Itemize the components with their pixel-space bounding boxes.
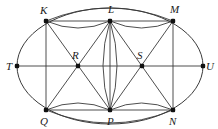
arc-K-L-lower	[46, 21, 110, 28]
vertex-dot-T	[15, 64, 19, 68]
vertex-dot-K	[44, 19, 48, 23]
vertex-label-Q: Q	[40, 115, 48, 127]
vertex-label-U: U	[206, 60, 215, 72]
arc-L-M-lower	[110, 21, 173, 28]
vertex-label-N: N	[168, 115, 177, 127]
vertex-dot-U	[201, 64, 205, 68]
arc-P-N-upper	[110, 103, 173, 110]
arc-L-P-left	[103, 21, 110, 110]
vertex-dot-Q	[44, 108, 48, 112]
vertex-dot-P	[108, 108, 112, 112]
arc-edges-group	[46, 8, 173, 123]
figure-canvas: KLMTRSUQPN	[0, 0, 218, 129]
geometry-figure: KLMTRSUQPN	[0, 0, 218, 129]
vertex-label-M: M	[169, 3, 180, 15]
vertex-label-S: S	[137, 49, 143, 61]
vertex-label-R: R	[71, 49, 79, 61]
vertex-label-P: P	[106, 115, 114, 127]
vertex-dot-N	[171, 108, 175, 112]
arc-Q-P-upper	[46, 103, 110, 110]
vertex-label-T: T	[6, 60, 13, 72]
straight-edges-group	[17, 21, 203, 110]
vertex-dot-M	[171, 19, 175, 23]
vertex-dot-R	[76, 64, 80, 68]
vertex-dot-L	[108, 19, 112, 23]
vertex-label-L: L	[107, 3, 114, 15]
arc-L-P-right	[110, 21, 117, 110]
vertex-dot-S	[140, 64, 144, 68]
vertex-label-K: K	[39, 4, 48, 16]
